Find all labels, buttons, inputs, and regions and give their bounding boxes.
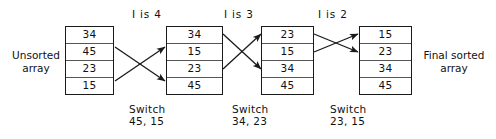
unsorted-array-caption: Unsorted array: [10, 49, 62, 75]
array-cell: 15: [167, 44, 222, 61]
swap-arrow-group-3: [314, 34, 358, 52]
array-cell: 34: [262, 61, 313, 78]
array-cell: 15: [262, 44, 313, 61]
array-cell: 45: [167, 78, 222, 95]
array-cell: 45: [360, 78, 411, 95]
array-cell: 34: [360, 61, 411, 78]
swap-arrow-group-2: [223, 34, 261, 69]
array-pass-2: 23 15 34 45: [261, 26, 314, 95]
bubble-sort-diagram: I is 4 I is 3 I is 2 Unsorted array 34 4…: [0, 0, 496, 139]
array-cell: 23: [66, 61, 113, 78]
array-cell: 45: [66, 44, 113, 61]
final-sorted-array-caption: Final sorted array: [419, 49, 489, 75]
switch-label-3: Switch 23, 15: [330, 103, 367, 127]
switch-label-2: Switch 34, 23: [232, 103, 269, 127]
array-cell: 23: [262, 27, 313, 44]
array-cell: 15: [66, 78, 113, 95]
array-unsorted: 34 45 23 15: [65, 26, 114, 95]
array-cell: 45: [262, 78, 313, 95]
array-cell: 34: [66, 27, 113, 44]
array-final-sorted: 15 23 34 45: [359, 26, 412, 95]
array-cell: 23: [360, 44, 411, 61]
iteration-label-2: I is 3: [224, 8, 254, 20]
array-cell: 15: [360, 27, 411, 44]
array-pass-1: 34 15 23 45: [166, 26, 223, 95]
switch-label-1: Switch 45, 15: [129, 103, 166, 127]
swap-arrow-group-1: [115, 47, 165, 81]
iteration-label-1: I is 4: [132, 8, 162, 20]
array-cell: 34: [167, 27, 222, 44]
iteration-label-3: I is 2: [318, 8, 348, 20]
array-cell: 23: [167, 61, 222, 78]
